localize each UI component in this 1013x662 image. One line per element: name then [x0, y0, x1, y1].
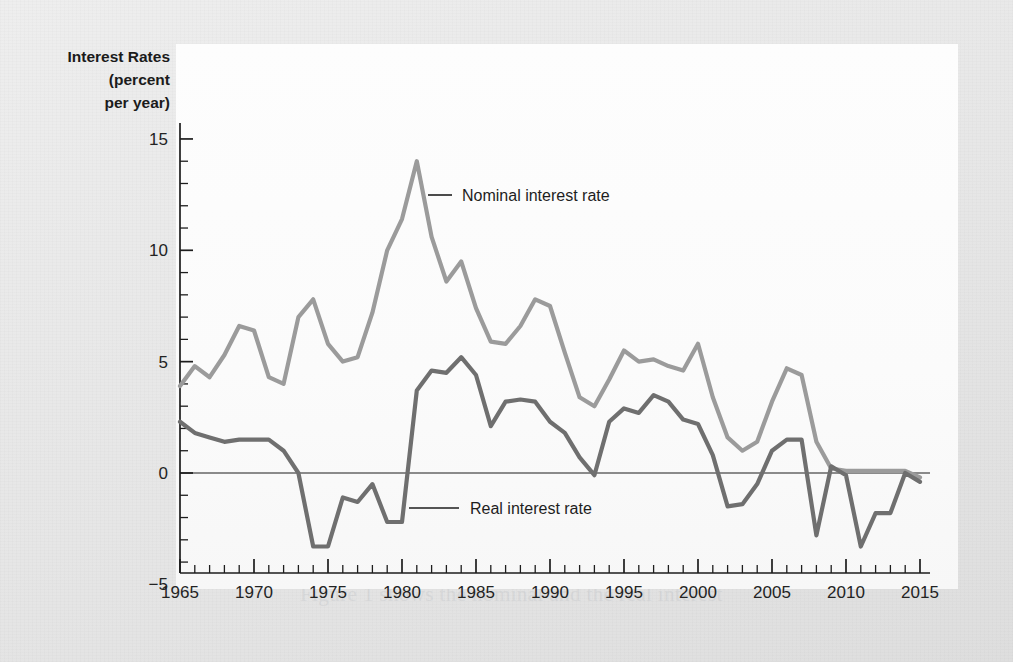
y-axis-title-line-2: (percent: [109, 71, 170, 88]
x-tick-label: 2010: [827, 583, 865, 602]
x-tick-label: 2000: [679, 583, 717, 602]
real-series-label: Real interest rate: [470, 500, 592, 517]
interest-rates-chart: Interest Rates (percent per year) 151050…: [0, 0, 1013, 662]
series-line: [180, 161, 920, 477]
x-tick-label: 2005: [753, 583, 791, 602]
nominal-series-label: Nominal interest rate: [462, 187, 610, 204]
x-tick-label: 1970: [235, 583, 273, 602]
chart-svg: Interest Rates (percent per year) 151050…: [0, 0, 1013, 662]
series-annotations: Nominal interest rate Real interest rate: [409, 187, 610, 517]
y-tick-label: 5: [159, 353, 168, 372]
x-tick-label: 1980: [383, 583, 421, 602]
y-axis-title: Interest Rates (percent per year): [67, 48, 170, 111]
x-tick-label: 1985: [457, 583, 495, 602]
x-tick-label: 1995: [605, 583, 643, 602]
y-tick-label: 0: [159, 464, 168, 483]
series-line: [180, 357, 920, 546]
x-tick-label: 1965: [161, 583, 199, 602]
y-tick-label: 10: [149, 241, 168, 260]
x-tick-label: 1990: [531, 583, 569, 602]
x-tick-label: 2015: [901, 583, 939, 602]
y-tick-label: 15: [149, 130, 168, 149]
x-tick-label: 1975: [309, 583, 347, 602]
y-axis-title-line-1: Interest Rates: [67, 48, 170, 65]
y-axis-title-line-3: per year): [105, 94, 170, 111]
